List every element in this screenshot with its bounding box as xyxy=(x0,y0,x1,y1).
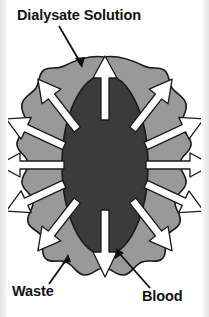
label-waste: Waste xyxy=(12,283,54,299)
label-blood: Blood xyxy=(142,288,183,304)
diagram-canvas: Dialysate Solution Waste Blood xyxy=(0,0,209,317)
dialysis-diagram-figure xyxy=(0,0,209,317)
label-dialysate-solution: Dialysate Solution xyxy=(17,7,141,23)
